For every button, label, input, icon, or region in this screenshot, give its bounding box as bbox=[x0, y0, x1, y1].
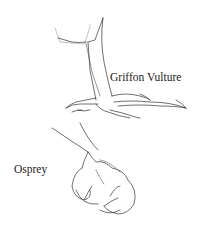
osprey-label: Osprey bbox=[14, 164, 47, 176]
bird-feet-drawing bbox=[0, 0, 202, 246]
illustration-canvas: Griffon Vulture Osprey bbox=[0, 0, 202, 246]
griffon-vulture-label: Griffon Vulture bbox=[110, 72, 181, 84]
osprey-foot-drawing bbox=[52, 123, 135, 214]
griffon-vulture-foot-drawing bbox=[55, 18, 186, 118]
